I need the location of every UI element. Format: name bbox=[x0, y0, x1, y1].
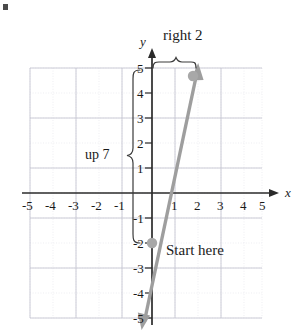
coordinate-plane-svg bbox=[0, 0, 304, 332]
start-point-annotation-label: Start here bbox=[166, 243, 224, 257]
x-tick-label-1: 1 bbox=[171, 199, 178, 212]
y-tick-label-neg1: -1 bbox=[133, 212, 144, 225]
y-tick-label-2: 2 bbox=[137, 137, 144, 150]
y-tick-label-neg2: -2 bbox=[133, 237, 144, 250]
y-tick-label-neg3: -3 bbox=[133, 262, 144, 275]
axis-lines bbox=[22, 48, 279, 325]
x-tick-label-4: 4 bbox=[240, 199, 247, 212]
x-tick-label-5: 5 bbox=[259, 199, 266, 212]
y-tick-label-4: 4 bbox=[137, 87, 144, 100]
x-tick-label-neg1: -1 bbox=[114, 199, 125, 212]
y-tick-label-1: 1 bbox=[137, 162, 144, 175]
x-tick-label-neg3: -3 bbox=[68, 199, 79, 212]
x-tick-label-3: 3 bbox=[217, 199, 224, 212]
bullet-mark-icon bbox=[3, 4, 8, 10]
run-annotation-label: right 2 bbox=[163, 28, 203, 42]
y-axis-label: y bbox=[140, 35, 146, 48]
y-tick-label-3: 3 bbox=[137, 112, 144, 125]
y-tick-label-5: 5 bbox=[137, 62, 144, 75]
x-axis-label: x bbox=[285, 186, 291, 199]
x-tick-label-neg2: -2 bbox=[91, 199, 102, 212]
plotted-line bbox=[138, 63, 204, 330]
y-tick-label-neg5: -5 bbox=[133, 312, 144, 325]
graph-figure: x y -5 -4 -3 -2 -1 1 2 3 4 5 5 4 3 2 1 -… bbox=[0, 0, 304, 332]
x-tick-label-2: 2 bbox=[194, 199, 201, 212]
rise-annotation-label: up 7 bbox=[85, 148, 110, 162]
y-tick-label-neg4: -4 bbox=[133, 287, 144, 300]
x-tick-label-neg4: -4 bbox=[45, 199, 56, 212]
run-brace bbox=[153, 58, 196, 69]
x-tick-label-neg5: -5 bbox=[22, 199, 33, 212]
